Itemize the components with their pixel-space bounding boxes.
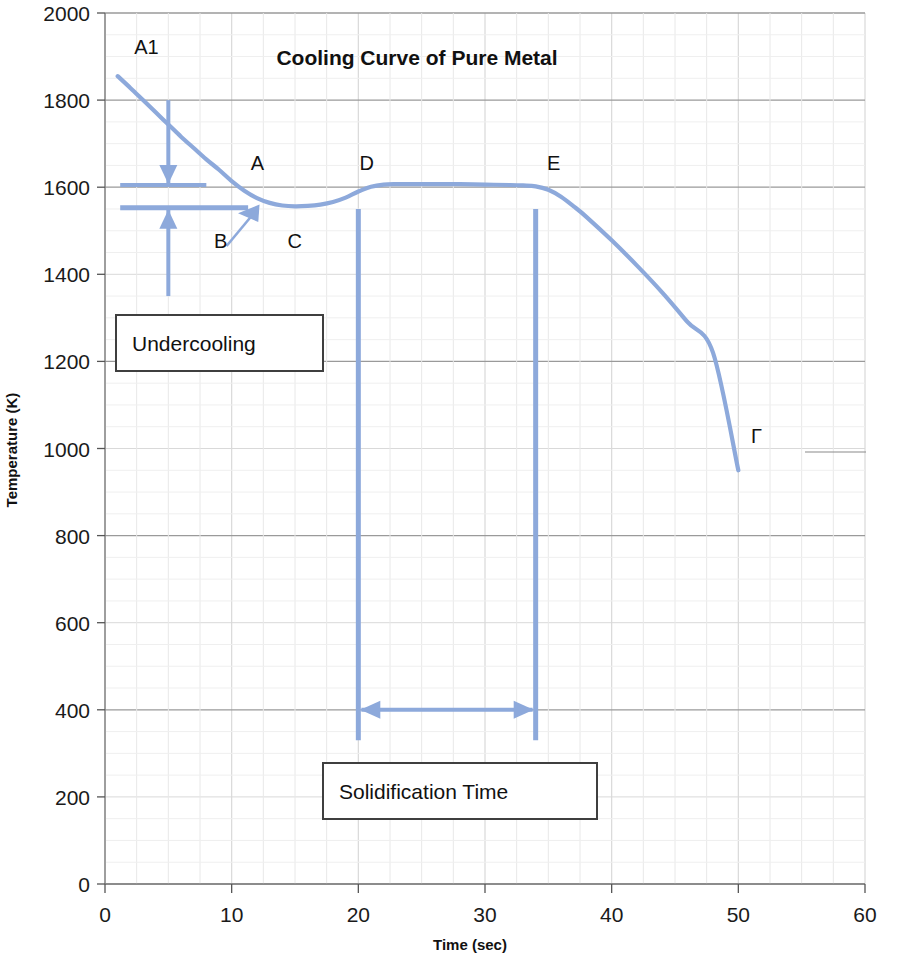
page-title: Cooling Curve of Pure Metal <box>276 46 557 69</box>
y-tick-label: 200 <box>55 786 90 809</box>
point-label-a1: A1 <box>134 36 158 58</box>
cooling-curve-chart: 0200400600800100012001400160018002000 01… <box>0 0 903 965</box>
y-tick-label: 2000 <box>43 2 90 25</box>
y-tick-label: 1000 <box>43 438 90 461</box>
chart-background <box>0 0 903 965</box>
y-tick-label: 1200 <box>43 350 90 373</box>
x-tick-label: 50 <box>727 903 750 926</box>
x-tick-label: 60 <box>853 903 876 926</box>
x-tick-label: 20 <box>347 903 370 926</box>
x-tick-label: 0 <box>99 903 111 926</box>
y-axis-title: Temperature (K) <box>3 393 20 508</box>
y-tick-label: 600 <box>55 612 90 635</box>
y-tick-label: 1400 <box>43 263 90 286</box>
undercooling-callout-label: Undercooling <box>132 332 256 355</box>
y-tick-label: 1800 <box>43 89 90 112</box>
y-tick-label: 400 <box>55 699 90 722</box>
point-label-c: C <box>287 230 301 252</box>
y-tick-label: 800 <box>55 525 90 548</box>
point-label-b: B <box>214 230 227 252</box>
point-label-e: E <box>547 152 560 174</box>
x-axis-title: Time (sec) <box>433 936 507 953</box>
y-tick-label: 0 <box>78 873 90 896</box>
point-label-f: Γ <box>751 425 762 447</box>
x-tick-label: 40 <box>600 903 623 926</box>
x-tick-label: 10 <box>220 903 243 926</box>
x-tick-label: 30 <box>473 903 496 926</box>
solidification-callout-label: Solidification Time <box>339 780 508 803</box>
y-tick-label: 1600 <box>43 176 90 199</box>
point-label-d: D <box>360 152 374 174</box>
chart-canvas: 0200400600800100012001400160018002000 01… <box>0 0 903 965</box>
point-label-a: A <box>251 152 265 174</box>
